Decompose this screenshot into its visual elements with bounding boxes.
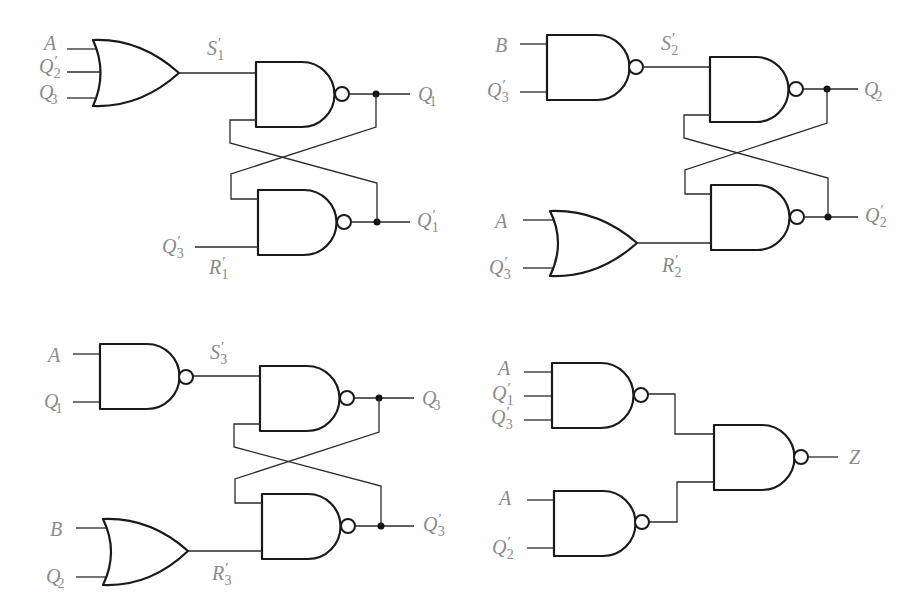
nand-gate-q3 (260, 366, 340, 431)
label-input-b: B (50, 519, 62, 539)
label-input-a: A (499, 488, 511, 508)
label-input-a: A (44, 33, 56, 53)
label-input-a: A (495, 211, 507, 231)
nand-gate-q3-prime (262, 494, 341, 559)
label-output-z: Z (849, 447, 860, 467)
label-input-a: A (498, 358, 510, 378)
inverter-bubble (789, 82, 803, 96)
nand-gate-q1 (256, 62, 334, 127)
label-input-q3-prime: Q′3 (162, 236, 184, 256)
label-input-a: A (48, 345, 60, 365)
label-input-q2-prime: Q′2 (39, 56, 61, 76)
circuit-q3-latch (73, 344, 414, 585)
inverter-bubble (340, 391, 354, 405)
inverter-bubble (629, 60, 643, 74)
label-input-q3-prime: Q′3 (491, 407, 513, 427)
label-input-q3-prime: Q′3 (489, 257, 511, 277)
label-output-q1-prime: Q′1 (417, 210, 439, 230)
nand-gate-q1-prime (258, 190, 337, 255)
inverter-bubble (794, 450, 808, 464)
label-input-q2-prime: Q′2 (492, 537, 514, 557)
or-gate-s1 (93, 40, 179, 106)
wire-z1-out (648, 394, 714, 434)
inverter-bubble (337, 215, 351, 229)
label-input-q1-prime: Q′1 (492, 383, 514, 403)
nand-gate-s3 (100, 344, 180, 409)
label-output-q2-prime: Q′2 (865, 205, 887, 225)
label-s2-prime: S′2 (661, 33, 678, 53)
label-r3-prime: R′3 (212, 563, 232, 583)
label-r1-prime: R′1 (209, 257, 229, 277)
label-r2-prime: R′2 (662, 255, 682, 275)
nand-gate-s2 (547, 35, 630, 100)
circuit-z-output (524, 363, 838, 556)
nand-gate-z-final (714, 425, 795, 490)
wire-z2-out (649, 482, 714, 522)
inverter-bubble (341, 519, 355, 533)
inverter-bubble (335, 87, 349, 101)
inverter-bubble (635, 515, 649, 529)
inverter-bubble (790, 210, 804, 224)
or-gate-r2 (550, 211, 637, 276)
label-s1-prime: S′1 (207, 38, 224, 58)
label-input-q3: Q3 (39, 82, 57, 102)
label-input-b: B (495, 35, 507, 55)
or-gate-r3 (103, 519, 188, 585)
label-input-q2: Q2 (46, 566, 64, 586)
nand-gate-q2 (710, 57, 789, 122)
label-output-q3-prime: Q′3 (423, 514, 445, 534)
label-input-q3-prime: Q′3 (487, 80, 509, 100)
label-output-q2: Q2 (864, 79, 882, 99)
nand-gate-z1 (552, 363, 634, 428)
nand-gate-q2-prime (711, 185, 790, 250)
label-output-q3: Q3 (422, 388, 440, 408)
circuit-q2-latch (520, 35, 858, 276)
nand-gate-z2 (554, 491, 636, 556)
inverter-bubble (179, 370, 193, 384)
label-output-q1: Q1 (418, 84, 436, 104)
label-s3-prime: S′3 (210, 342, 227, 362)
label-input-q1: Q1 (44, 391, 62, 411)
circuit-q1-latch (67, 40, 410, 255)
inverter-bubble (634, 388, 648, 402)
logic-circuit-diagram (0, 0, 921, 609)
